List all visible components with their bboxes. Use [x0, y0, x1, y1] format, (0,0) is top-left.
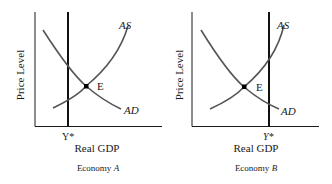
ad-curve	[201, 30, 279, 109]
caption-prefix: Economy	[235, 163, 272, 173]
equilibrium-point	[242, 85, 247, 90]
as-curve	[210, 25, 284, 109]
caption-letter: B	[272, 163, 278, 173]
panel-economy-b: E AS AD Y* Real GDP Price Level Economy …	[173, 12, 319, 173]
as-curve	[53, 26, 128, 108]
as-curve-label: AS	[118, 19, 132, 31]
caption-letter: A	[113, 163, 120, 173]
potential-output-label: Y*	[62, 131, 74, 142]
x-axis-label: Real GDP	[75, 142, 120, 154]
y-axis-label: Price Level	[173, 50, 185, 100]
x-axis-label: Real GDP	[234, 142, 279, 154]
equilibrium-label: E	[256, 81, 263, 93]
equilibrium-point	[84, 84, 89, 89]
economy-diagrams: E AS AD Y* Real GDP Price Level Economy …	[0, 0, 332, 184]
ad-curve	[43, 30, 121, 109]
panel-caption: Economy A	[77, 163, 120, 173]
as-curve-label: AS	[276, 19, 290, 31]
panel-caption: Economy B	[235, 163, 278, 173]
ad-curve-label: AD	[280, 105, 296, 117]
equilibrium-label: E	[97, 80, 104, 92]
caption-prefix: Economy	[77, 163, 114, 173]
panel-economy-a: E AS AD Y* Real GDP Price Level Economy …	[14, 12, 162, 173]
ad-curve-label: AD	[123, 104, 139, 116]
potential-output-label: Y*	[263, 131, 274, 142]
y-axis-label: Price Level	[14, 50, 26, 100]
